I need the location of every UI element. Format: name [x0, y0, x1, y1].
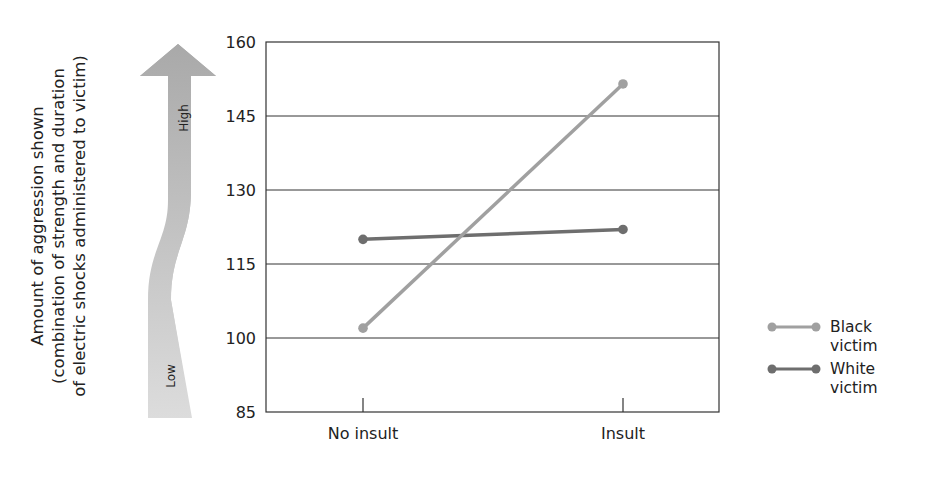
legend-black-line2: victim: [830, 337, 900, 356]
series-black-victim: [358, 79, 628, 333]
data-point: [358, 323, 368, 333]
data-point: [358, 235, 368, 245]
legend-item-black-victim: Black victim: [766, 318, 900, 356]
legend-swatch-white-victim: [766, 360, 822, 380]
legend-black-line1: Black: [830, 318, 900, 337]
x-tick-label: Insult: [601, 424, 645, 443]
legend-white-line1: White: [830, 360, 900, 379]
x-tick-labels: No insultInsult: [328, 424, 645, 443]
y-tick-label: 115: [225, 255, 256, 274]
y-tick-label: 100: [225, 329, 256, 348]
y-tick-label: 130: [225, 181, 256, 200]
legend-item-white-victim: White victim: [766, 360, 900, 398]
chart-canvas: High Low 16014513011510085 No insultInsu…: [0, 0, 925, 480]
aggression-arrow-icon: High Low: [140, 44, 216, 418]
series-white-victim: [358, 225, 628, 244]
y-tick-label: 145: [225, 107, 256, 126]
legend-label-white-victim: White victim: [830, 360, 900, 398]
legend-label-black-victim: Black victim: [830, 318, 900, 356]
arrow-high-label: High: [177, 104, 191, 132]
data-point: [618, 225, 628, 235]
y-tick-label: 85: [236, 403, 256, 422]
arrow-low-label: Low: [164, 364, 178, 388]
legend-white-line2: victim: [830, 379, 900, 398]
data-point: [618, 79, 628, 89]
x-ticks: [363, 398, 623, 412]
legend-swatch-black-victim: [766, 318, 822, 338]
plot-area: [266, 42, 719, 412]
y-tick-label: 160: [225, 33, 256, 52]
series-lines: [358, 79, 628, 333]
legend: Black victim White victim: [766, 318, 900, 402]
y-tick-labels: 16014513011510085: [225, 33, 256, 422]
x-tick-label: No insult: [328, 424, 399, 443]
gridlines: [266, 116, 719, 338]
